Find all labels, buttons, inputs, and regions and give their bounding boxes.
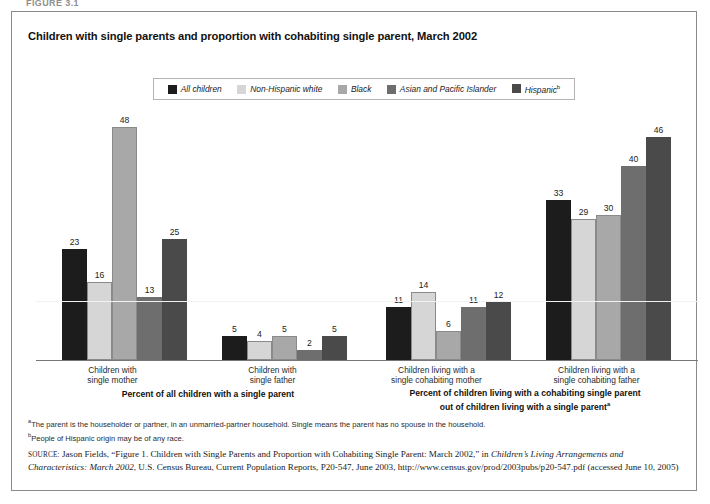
bar[interactable] xyxy=(112,127,137,360)
category-label-line2: single mother xyxy=(33,375,193,385)
bar-group: 111461112 xyxy=(386,108,511,360)
bar-value-label: 25 xyxy=(155,227,195,237)
bar-slot: 4 xyxy=(247,108,272,360)
bar-group: 54525 xyxy=(222,108,347,360)
footnote: aThe parent is the householder or partne… xyxy=(28,416,686,430)
source-text-part1: Jason Fields, “Figure 1. Children with S… xyxy=(60,449,491,459)
panel-label: Percent of all children with a single pa… xyxy=(48,389,368,400)
source-note: SOURCE: Jason Fields, “Figure 1. Childre… xyxy=(28,449,684,473)
bar-slot: 30 xyxy=(596,108,621,360)
bar-slot: 46 xyxy=(646,108,671,360)
bar[interactable] xyxy=(571,219,596,360)
legend-label: Non-Hispanic white xyxy=(250,84,322,94)
legend-swatch-icon xyxy=(387,85,396,94)
bar[interactable] xyxy=(486,302,511,360)
panel-label-line2: out of children living with a single par… xyxy=(360,399,690,412)
category-label-line1: Children with xyxy=(33,365,193,375)
legend-label: Black xyxy=(351,84,371,94)
legend-footnote-marker: b xyxy=(557,84,560,90)
legend-item: Black xyxy=(338,84,371,94)
figure-number: FIGURE 3.1 xyxy=(26,0,79,8)
bar-slot: 6 xyxy=(436,108,461,360)
bar-group: 2316481325 xyxy=(62,108,187,360)
legend-label: Hispanicb xyxy=(525,84,560,95)
category-label-line2: single father xyxy=(193,375,353,385)
category-label-line1: Children living with a xyxy=(517,365,677,375)
legend-swatch-icon xyxy=(237,85,246,94)
legend-item: All children xyxy=(168,84,222,94)
legend-swatch-icon xyxy=(168,85,177,94)
bar-slot: 5 xyxy=(322,108,347,360)
bar-value-label: 46 xyxy=(639,125,679,135)
panel-label-line1: Percent of children living with a cohabi… xyxy=(360,388,690,399)
bar[interactable] xyxy=(222,336,247,360)
bar[interactable] xyxy=(386,307,411,360)
bar-slot: 25 xyxy=(162,108,187,360)
legend-label: Asian and Pacific Islander xyxy=(400,84,496,94)
legend-item: Asian and Pacific Islander xyxy=(387,84,496,94)
chart-title: Children with single parents and proport… xyxy=(28,30,477,42)
bar-slot: 5 xyxy=(222,108,247,360)
bar-value-label: 12 xyxy=(479,290,519,300)
bar[interactable] xyxy=(461,307,486,360)
bar-slot: 48 xyxy=(112,108,137,360)
source-prefix: SOURCE: xyxy=(28,451,60,459)
bar-slot: 2 xyxy=(297,108,322,360)
category-label-line1: Children living with a xyxy=(357,365,517,375)
panel-label-line1: Percent of all children with a single pa… xyxy=(48,389,368,400)
legend-swatch-icon xyxy=(338,85,347,94)
category-label: Children withsingle mother xyxy=(33,365,193,385)
figure-frame: Children with single parents and proport… xyxy=(11,11,697,491)
bar-group: 3329304046 xyxy=(546,108,671,360)
chart-legend: All childrenNon-Hispanic whiteBlackAsian… xyxy=(153,78,575,100)
bar[interactable] xyxy=(137,297,162,360)
bar[interactable] xyxy=(646,137,671,360)
bar-slot: 11 xyxy=(386,108,411,360)
bar[interactable] xyxy=(247,341,272,360)
legend-label: All children xyxy=(181,84,222,94)
bar[interactable] xyxy=(621,166,646,360)
bar-slot: 5 xyxy=(272,108,297,360)
bar-slot: 12 xyxy=(486,108,511,360)
bar[interactable] xyxy=(87,282,112,360)
category-label: Children living with asingle cohabiting … xyxy=(517,365,677,385)
category-label-line1: Children with xyxy=(193,365,353,375)
panel-label-footnote-marker: a xyxy=(607,401,610,407)
footnote: bPeople of Hispanic origin may be of any… xyxy=(28,430,686,444)
bar[interactable] xyxy=(546,200,571,360)
category-label-line2: single cohabiting mother xyxy=(357,375,517,385)
bar-slot: 11 xyxy=(461,108,486,360)
bar[interactable] xyxy=(297,350,322,360)
panel-label: Percent of children living with a cohabi… xyxy=(360,388,690,412)
category-label: Children withsingle father xyxy=(193,365,353,385)
bar-value-label: 5 xyxy=(315,324,355,334)
category-label: Children living with asingle cohabiting … xyxy=(357,365,517,385)
bar[interactable] xyxy=(596,215,621,360)
legend-item: Hispanicb xyxy=(512,84,560,95)
footnotes: aThe parent is the householder or partne… xyxy=(28,416,686,443)
footnote-text: People of Hispanic origin may be of any … xyxy=(31,433,184,442)
plot-area: 2316481325545251114611123329304046 xyxy=(36,108,698,360)
bar[interactable] xyxy=(322,336,347,360)
bar-slot: 16 xyxy=(87,108,112,360)
category-label-line2: single cohabiting father xyxy=(517,375,677,385)
bar[interactable] xyxy=(436,331,461,360)
bar[interactable] xyxy=(162,239,187,360)
footnote-text: The parent is the householder or partner… xyxy=(31,420,485,429)
bar-slot: 40 xyxy=(621,108,646,360)
x-axis-line xyxy=(36,360,698,361)
bar[interactable] xyxy=(62,249,87,360)
gridline xyxy=(36,301,698,302)
legend-swatch-icon xyxy=(512,84,521,93)
bar-slot: 33 xyxy=(546,108,571,360)
source-text-part2: , U.S. Census Bureau, Current Population… xyxy=(134,462,679,472)
bar-slot: 29 xyxy=(571,108,596,360)
bar-slot: 23 xyxy=(62,108,87,360)
legend-item: Non-Hispanic white xyxy=(237,84,322,94)
